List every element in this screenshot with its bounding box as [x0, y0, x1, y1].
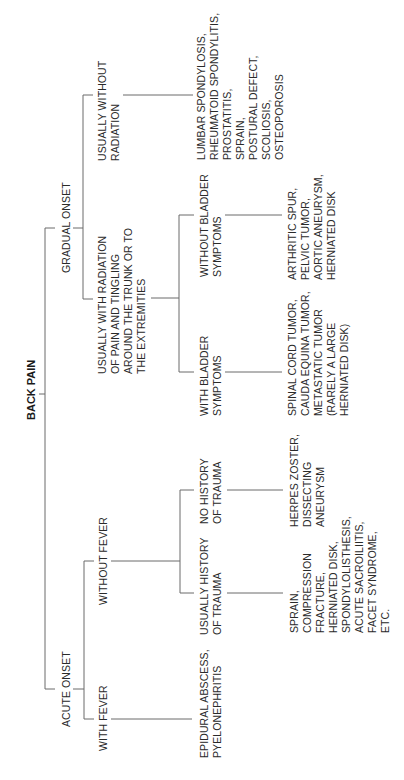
node-usually-with-radiation: USUALLY WITH RADIATION OF PAIN AND TINGL…	[96, 228, 147, 374]
svg-text:THE EXTREMITIES: THE EXTREMITIES	[135, 279, 147, 374]
svg-text:SPRAIN,: SPRAIN,	[288, 590, 300, 633]
svg-text:ACUTE ONSET: ACUTE ONSET	[60, 651, 72, 727]
svg-text:PROSTATITIS,: PROSTATITIS,	[221, 89, 233, 160]
svg-text:PELVIC TUMOR,: PELVIC TUMOR,	[299, 198, 311, 280]
tree-connectors	[39, 95, 283, 719]
svg-text:SYMPTOMS: SYMPTOMS	[211, 355, 223, 416]
svg-text:RADIATION: RADIATION	[109, 104, 121, 161]
svg-text:USUALLY WITH RADIATION: USUALLY WITH RADIATION	[96, 236, 108, 374]
diagnoses-no-trauma: HERPES ZOSTER, DISSECTING ANEURYSM	[288, 434, 326, 527]
svg-text:SCOLIOSIS,: SCOLIOSIS,	[260, 99, 272, 160]
svg-text:OSTEOPOROSIS: OSTEOPOROSIS	[273, 74, 285, 160]
svg-text:OF TRAUMA: OF TRAUMA	[211, 461, 223, 524]
svg-text:OF TRAUMA: OF TRAUMA	[211, 572, 223, 635]
svg-text:WITHOUT FEVER: WITHOUT FEVER	[97, 517, 109, 605]
svg-text:AROUND THE TRUNK OR TO: AROUND THE TRUNK OR TO	[122, 228, 134, 374]
svg-text:NO HISTORY: NO HISTORY	[198, 458, 210, 524]
svg-text:CAUDA EQUINA TUMOR,: CAUDA EQUINA TUMOR,	[299, 291, 311, 416]
svg-text:METASTATIC TUMOR: METASTATIC TUMOR	[312, 309, 324, 416]
svg-text:ACUTE SACROILIITIS,: ACUTE SACROILIITIS,	[353, 521, 365, 633]
svg-text:GRADUAL ONSET: GRADUAL ONSET	[60, 182, 72, 273]
svg-text:SPONDYLOLISTHESIS,: SPONDYLOLISTHESIS,	[340, 516, 352, 633]
svg-text:WITH FEVER: WITH FEVER	[97, 685, 109, 751]
node-acute-onset: ACUTE ONSET	[60, 651, 72, 727]
node-without-bladder-symptoms: WITHOUT BLADDER SYMPTOMS	[198, 174, 223, 277]
node-with-fever: WITH FEVER	[97, 685, 109, 751]
back-pain-decision-tree: BACK PAIN GRADUAL ONSET USUALLY WITHOUT …	[0, 0, 404, 780]
diagnoses-without-bladder: ARTHRITIC SPUR, PELVIC TUMOR, AORTIC ANE…	[286, 174, 337, 280]
diagnoses-with-bladder: SPINAL CORD TUMOR, CAUDA EQUINA TUMOR, M…	[286, 291, 350, 416]
svg-text:WITHOUT BLADDER: WITHOUT BLADDER	[198, 174, 210, 277]
node-usually-history-of-trauma: USUALLY HISTORY OF TRAUMA	[198, 537, 223, 635]
svg-text:ANEURYSM: ANEURYSM	[314, 467, 326, 527]
node-with-bladder-symptoms: WITH BLADDER SYMPTOMS	[198, 335, 223, 416]
root-node-back-pain: BACK PAIN	[25, 360, 37, 420]
svg-text:COMPRESSION: COMPRESSION	[301, 553, 313, 633]
svg-text:SPRAIN,: SPRAIN,	[234, 117, 246, 160]
diagnoses-trauma: SPRAIN, COMPRESSION FRACTURE, HERNIATED …	[288, 516, 391, 633]
node-no-history-of-trauma: NO HISTORY OF TRAUMA	[198, 458, 223, 524]
node-gradual-onset: GRADUAL ONSET	[60, 182, 72, 273]
svg-text:(RARELY A LARGE: (RARELY A LARGE	[325, 323, 337, 416]
svg-text:HERPES ZOSTER,: HERPES ZOSTER,	[288, 434, 300, 527]
svg-text:OF PAIN AND TINGLING: OF PAIN AND TINGLING	[109, 254, 121, 374]
svg-text:ETC.: ETC.	[379, 609, 391, 633]
svg-text:USUALLY WITHOUT: USUALLY WITHOUT	[96, 60, 108, 161]
svg-text:FRACTURE,: FRACTURE,	[314, 572, 326, 633]
svg-text:HERNIATED DISK: HERNIATED DISK	[325, 191, 337, 280]
node-without-fever: WITHOUT FEVER	[97, 517, 109, 605]
svg-text:LUMBAR SPONDYLOSIS,: LUMBAR SPONDYLOSIS,	[195, 33, 207, 160]
node-usually-without-radiation: USUALLY WITHOUT RADIATION	[96, 60, 121, 161]
svg-text:RHEUMATOID SPONDYLITIS,: RHEUMATOID SPONDYLITIS,	[208, 13, 220, 160]
svg-text:EPIDURAL ABSCESS,: EPIDURAL ABSCESS,	[198, 649, 210, 758]
svg-text:SPINAL CORD TUMOR,: SPINAL CORD TUMOR,	[286, 299, 298, 416]
svg-text:DISSECTING: DISSECTING	[301, 462, 313, 527]
svg-text:AORTIC ANEURYSM,: AORTIC ANEURYSM,	[312, 174, 324, 280]
diagnoses-with-fever: EPIDURAL ABSCESS, PYELONEPHRITIS	[198, 649, 223, 758]
svg-text:USUALLY HISTORY: USUALLY HISTORY	[198, 537, 210, 635]
diagnoses-without-radiation: LUMBAR SPONDYLOSIS, RHEUMATOID SPONDYLIT…	[195, 13, 285, 160]
svg-text:ARTHRITIC SPUR,: ARTHRITIC SPUR,	[286, 188, 298, 280]
svg-text:SYMPTOMS: SYMPTOMS	[211, 216, 223, 277]
svg-text:BACK PAIN: BACK PAIN	[25, 360, 37, 420]
svg-text:HERNIATED DISK): HERNIATED DISK)	[338, 324, 350, 416]
svg-text:FACET SYNDROME,: FACET SYNDROME,	[366, 531, 378, 633]
svg-text:HERNIATED DISK,: HERNIATED DISK,	[327, 541, 339, 633]
svg-text:PYELONEPHRITIS: PYELONEPHRITIS	[211, 666, 223, 758]
svg-text:WITH BLADDER: WITH BLADDER	[198, 335, 210, 416]
svg-text:POSTURAL DEFECT,: POSTURAL DEFECT,	[247, 56, 259, 160]
